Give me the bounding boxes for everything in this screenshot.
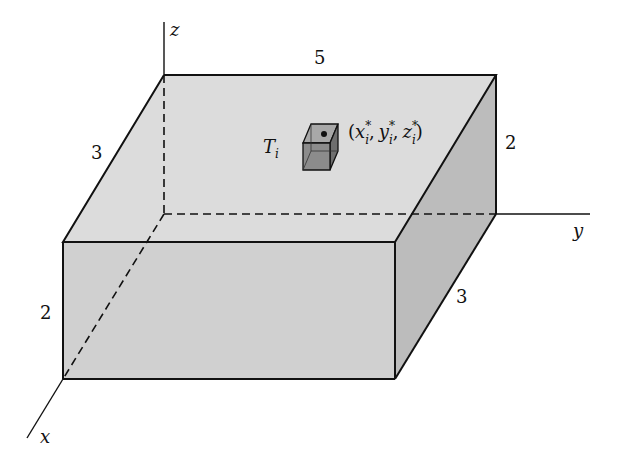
z-axis-label: z — [169, 19, 180, 40]
right-depth-label: 3 — [456, 286, 467, 307]
box-diagram: z y x 5 3 2 2 3 Ti (x*i,y*i,z*i) — [0, 0, 621, 456]
x-axis-label: x — [40, 426, 50, 447]
top-width-label: 3 — [91, 142, 102, 163]
top-length-label: 5 — [314, 47, 325, 68]
front-height-label: 2 — [40, 302, 51, 323]
sample-point — [321, 131, 327, 137]
right-height-label: 2 — [505, 132, 516, 153]
y-axis-label: y — [572, 220, 584, 241]
front-face — [63, 242, 395, 379]
sub-box-Ti — [303, 124, 338, 170]
